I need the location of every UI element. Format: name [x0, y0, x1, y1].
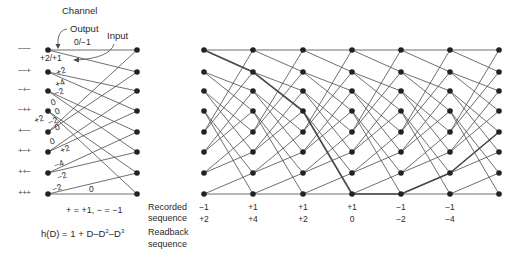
- trellis-node: [45, 191, 51, 197]
- trellis-edge: [401, 91, 450, 132]
- edge-label: +2/+1: [40, 54, 62, 63]
- trellis-edge: [253, 72, 303, 132]
- trellis-node: [201, 170, 207, 176]
- trellis-node: [201, 191, 207, 197]
- trellis-edge: [450, 173, 499, 194]
- state-label: +−+: [18, 147, 31, 155]
- readback-label-line1: Readback: [148, 228, 189, 237]
- trellis-node: [134, 88, 140, 94]
- trellis-node: [398, 129, 404, 135]
- trellis-node: [447, 191, 453, 197]
- trellis-node: [496, 69, 502, 75]
- trellis-edge: [204, 111, 253, 152]
- readback-value: +4: [241, 215, 265, 224]
- trellis-node: [45, 69, 51, 75]
- trellis-node: [447, 170, 453, 176]
- trellis-node: [250, 108, 256, 114]
- trellis-node: [201, 47, 207, 53]
- trellis-node: [349, 170, 355, 176]
- trellis-edge: [401, 72, 450, 132]
- input-label: Input: [107, 31, 128, 41]
- readback-value: +2: [291, 215, 315, 224]
- trellis-node: [300, 47, 306, 53]
- trellis-node: [496, 149, 502, 155]
- trellis-node: [398, 191, 404, 197]
- readback-value: +2: [192, 215, 216, 224]
- trellis-node: [201, 108, 207, 114]
- trellis-node: [398, 47, 404, 53]
- state-label: −−−: [18, 45, 31, 53]
- trellis-node: [250, 129, 256, 135]
- trellis-edge: [204, 50, 253, 132]
- trellis-edge: [204, 173, 253, 194]
- trellis-node: [496, 129, 502, 135]
- trellis-edge: [401, 152, 450, 173]
- trellis-edge: [352, 91, 401, 132]
- trellis-node: [45, 129, 51, 135]
- highlighted-path-edge: [450, 132, 499, 173]
- state-label: −+−: [18, 86, 31, 94]
- highlighted-path-edge: [401, 173, 450, 194]
- trellis-node: [45, 149, 51, 155]
- state-label: ++−: [18, 168, 31, 176]
- trellis-node: [496, 170, 502, 176]
- trellis-node: [134, 47, 140, 53]
- trellis-node: [45, 47, 51, 53]
- trellis-node: [349, 88, 355, 94]
- trellis-edge: [401, 132, 450, 173]
- trellis-node: [447, 47, 453, 53]
- trellis-node: [496, 47, 502, 53]
- trellis-edge: [352, 72, 401, 132]
- trellis-node: [349, 149, 355, 155]
- trellis-edge: [253, 91, 303, 132]
- output-arrowhead-icon: [56, 44, 61, 49]
- trellis-node: [300, 69, 306, 75]
- trellis-node: [300, 170, 306, 176]
- state-label: +++: [18, 189, 31, 197]
- trellis-node: [349, 47, 355, 53]
- trellis-node: [201, 88, 207, 94]
- trellis-node: [45, 108, 51, 114]
- trellis-edge: [204, 91, 253, 132]
- trellis-edge: [352, 50, 401, 72]
- trellis-node: [250, 69, 256, 75]
- trellis-edge: [303, 111, 352, 152]
- trellis-edge: [48, 91, 137, 132]
- trellis-edge: [303, 50, 352, 72]
- edge-label: 0/−1: [74, 38, 91, 47]
- trellis-node: [398, 108, 404, 114]
- trellis-edge: [450, 50, 499, 72]
- trellis-node: [447, 69, 453, 75]
- state-label: +−−: [18, 127, 31, 135]
- trellis-node: [134, 108, 140, 114]
- recorded-value: −1: [389, 203, 413, 212]
- trellis-node: [250, 170, 256, 176]
- readback-value: −4: [438, 215, 462, 224]
- trellis-edge: [253, 152, 303, 173]
- trellis-edge: [204, 152, 253, 173]
- formula-exp1: 2: [105, 228, 108, 234]
- recorded-label-line1: Recorded: [148, 203, 187, 212]
- trellis-node: [250, 149, 256, 155]
- formula-exp2: 3: [121, 228, 124, 234]
- trellis-node: [447, 108, 453, 114]
- trellis-node: [447, 149, 453, 155]
- trellis-node: [45, 170, 51, 176]
- trellis-node: [398, 69, 404, 75]
- trellis-node: [201, 69, 207, 75]
- trellis-edge: [253, 132, 303, 173]
- trellis-node: [250, 88, 256, 94]
- trellis-node: [349, 108, 355, 114]
- trellis-edge: [303, 91, 352, 132]
- trellis-edge: [303, 50, 352, 132]
- trellis-edge: [450, 91, 499, 132]
- recorded-value: +1: [340, 203, 364, 212]
- trellis-node: [349, 129, 355, 135]
- transfer-function: h(D) = 1 + D–D2–D3: [41, 229, 124, 239]
- trellis-node: [300, 149, 306, 155]
- trellis-node: [300, 108, 306, 114]
- trellis-edge: [204, 132, 253, 173]
- recorded-value: −1: [438, 203, 462, 212]
- trellis-node: [134, 191, 140, 197]
- trellis-node: [300, 88, 306, 94]
